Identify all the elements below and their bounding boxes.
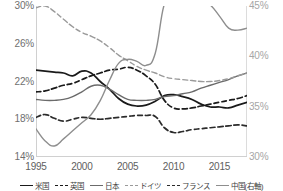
y-axis-right-tick-label: 45% (249, 0, 283, 11)
legend-label: 英国 (70, 180, 84, 191)
legend-item-2[interactable]: 日本 (90, 180, 119, 191)
y-axis-left-tick-label: 30% (0, 0, 34, 11)
series-line-5 (36, 6, 247, 146)
legend-item-1[interactable]: 英国 (55, 180, 84, 191)
chart-legend: 米国英国日本ドイツフランス中国(右軸) (0, 180, 283, 191)
x-axis-tick-label: 2010 (154, 161, 194, 172)
series-line-4 (36, 115, 247, 133)
legend-label: 日本 (105, 180, 119, 191)
series-line-3 (36, 6, 247, 82)
legend-label: 米国 (35, 180, 49, 191)
series-line-2 (36, 73, 247, 101)
x-axis-tick-label: 2000 (62, 161, 102, 172)
y-axis-right-tick-label: 35% (249, 101, 283, 112)
legend-item-3[interactable]: ドイツ (125, 180, 161, 191)
y-axis-right-tick-label: 30% (249, 151, 283, 162)
legend-label: ドイツ (140, 180, 161, 191)
legend-swatch-icon (216, 185, 229, 186)
x-axis-tick-label: 2005 (108, 161, 148, 172)
legend-item-4[interactable]: フランス (167, 180, 210, 191)
legend-swatch-icon (90, 185, 103, 186)
y-axis-left-tick-label: 26% (0, 38, 34, 49)
series-line-1 (36, 67, 247, 109)
legend-label: 中国(右軸) (231, 180, 264, 191)
legend-item-0[interactable]: 米国 (20, 180, 49, 191)
x-axis-tick-label: 2015 (199, 161, 239, 172)
line-chart: 米国英国日本ドイツフランス中国(右軸) 14%18%22%26%30%30%35… (0, 0, 283, 191)
legend-swatch-icon (167, 185, 180, 186)
y-axis-left-tick-label: 22% (0, 76, 34, 87)
legend-item-5[interactable]: 中国(右軸) (216, 180, 264, 191)
x-axis-tick-label: 1995 (16, 161, 56, 172)
legend-swatch-icon (55, 185, 68, 186)
y-axis-left-tick-label: 18% (0, 113, 34, 124)
legend-swatch-icon (125, 185, 138, 186)
plot-area (36, 6, 247, 157)
y-axis-right-tick-label: 40% (249, 50, 283, 61)
legend-label: フランス (182, 180, 210, 191)
legend-swatch-icon (20, 185, 33, 186)
